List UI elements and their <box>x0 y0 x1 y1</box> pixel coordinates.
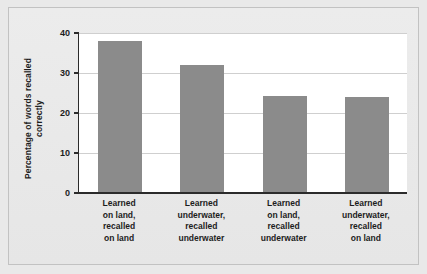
y-axis-tick <box>74 72 79 73</box>
x-axis-label-line: Learned <box>76 198 162 210</box>
x-axis-label-line: recalled <box>323 221 409 233</box>
x-axis-label-line: underwater, <box>323 210 409 222</box>
x-axis-label-line: on land <box>323 233 409 245</box>
x-axis-label-line: on land, <box>241 210 327 222</box>
y-axis-title: Percentage of words recalled correctly <box>23 39 44 199</box>
x-axis-labels: Learnedon land,recalledon landLearnedund… <box>78 198 407 260</box>
y-axis-title-line-1: Percentage of words <box>23 93 33 179</box>
x-axis-label-line: recalled <box>241 221 327 233</box>
gridline <box>79 33 407 34</box>
y-axis-tick-label: 40 <box>60 28 70 38</box>
y-axis-tick-label: 10 <box>60 148 70 158</box>
x-axis-label-line: Learned <box>323 198 409 210</box>
y-axis-tick <box>74 152 79 153</box>
x-axis-label: Learnedunderwater,recalledon land <box>323 198 409 244</box>
figure: Percentage of words recalled correctly 0… <box>0 0 427 274</box>
x-axis-label-line: recalled <box>76 221 162 233</box>
x-axis-label-line: Learned <box>158 198 244 210</box>
x-axis-label: Learnedon land,recalledunderwater <box>241 198 327 244</box>
x-axis-label-line: recalled <box>158 221 244 233</box>
bar <box>263 96 307 193</box>
x-axis-label-line: on land <box>76 233 162 245</box>
y-axis-tick-label: 30 <box>60 68 70 78</box>
y-axis-tick <box>74 32 79 33</box>
y-axis-tick-label: 0 <box>65 188 70 198</box>
y-axis-tick-label: 20 <box>60 108 70 118</box>
x-axis-label-line: underwater <box>158 233 244 245</box>
x-axis-label-line: underwater <box>241 233 327 245</box>
x-axis-label: Learnedon land,recalledon land <box>76 198 162 244</box>
y-axis-tick <box>74 112 79 113</box>
x-axis-label: Learnedunderwater,recalledunderwater <box>158 198 244 244</box>
x-axis-line <box>78 192 407 193</box>
x-axis-label-line: Learned <box>241 198 327 210</box>
plot-area: 010203040 <box>78 33 407 193</box>
x-axis-label-line: underwater, <box>158 210 244 222</box>
bar <box>345 97 389 193</box>
x-axis-label-line: on land, <box>76 210 162 222</box>
bar <box>180 65 224 193</box>
bar <box>98 41 142 193</box>
